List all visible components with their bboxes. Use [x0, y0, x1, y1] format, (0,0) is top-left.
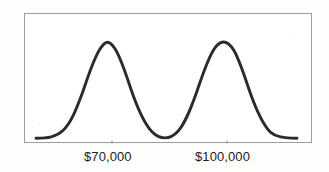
figure-root: $70,000 $100,000 [0, 0, 329, 172]
xtick-label-100000: $100,000 [195, 149, 250, 164]
xtick-label-70000: $70,000 [84, 149, 132, 164]
plot-frame [24, 13, 312, 143]
